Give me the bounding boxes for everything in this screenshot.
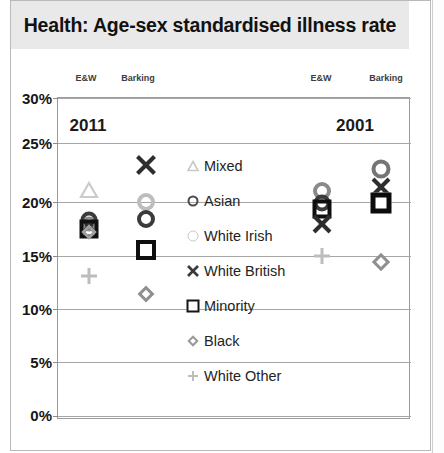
circle-icon [183, 191, 203, 211]
square-icon [371, 193, 392, 214]
column-header-2001-ew: E&W [311, 73, 332, 83]
legend-item-black[interactable]: Black [183, 323, 303, 358]
circle-icon [183, 226, 203, 246]
legend: Mixed Asian White Irish White British [183, 148, 303, 393]
triangle-icon [183, 156, 203, 176]
legend-label: White Irish [204, 228, 273, 244]
y-tick-15: 15% [22, 248, 52, 265]
tick-5 [53, 362, 58, 363]
legend-item-mixed[interactable]: Mixed [183, 148, 303, 183]
y-tick-20: 20% [22, 194, 52, 211]
legend-label: Black [204, 333, 239, 349]
x-icon [135, 154, 158, 177]
legend-label: Asian [204, 193, 240, 209]
legend-item-white-british[interactable]: White British [183, 253, 303, 288]
circle-icon [137, 210, 155, 228]
tick-15 [53, 256, 58, 257]
gridline-30 [58, 98, 411, 99]
tick-20 [53, 202, 58, 203]
legend-item-minority[interactable]: Minority [183, 288, 303, 323]
y-tick-25: 25% [22, 135, 52, 152]
legend-item-white-irish[interactable]: White Irish [183, 218, 303, 253]
column-header-2001-barking: Barking [369, 73, 403, 83]
tick-0 [53, 416, 58, 417]
y-tick-30: 30% [22, 90, 52, 107]
y-tick-10: 10% [22, 301, 52, 318]
y-tick-0: 0% [30, 407, 52, 424]
square-icon [136, 240, 156, 260]
chart-page: Health: Age-sex standardised illness rat… [0, 0, 444, 453]
group-label-2011: 2011 [70, 116, 107, 136]
tick-25 [53, 143, 58, 144]
triangle-icon [79, 181, 99, 199]
legend-label: Minority [204, 298, 255, 314]
plus-icon [183, 366, 203, 386]
group-label-2001: 2001 [336, 116, 374, 136]
gridline-25 [58, 143, 411, 144]
legend-item-asian[interactable]: Asian [183, 183, 303, 218]
y-axis-labels: 30% 25% 20% 15% 10% 5% 0% [4, 97, 52, 419]
tick-10 [53, 309, 58, 310]
square-icon [183, 296, 203, 316]
column-header-2011-ew: E&W [76, 73, 97, 83]
diamond-icon [138, 286, 155, 303]
tick-30 [53, 98, 58, 99]
plus-icon [79, 266, 99, 286]
gridline-0 [58, 416, 411, 417]
x-icon [311, 213, 333, 235]
circle-icon [137, 193, 155, 211]
legend-item-white-other[interactable]: White Other [183, 358, 303, 393]
page-title: Health: Age-sex standardised illness rat… [14, 8, 406, 42]
plus-icon [312, 246, 332, 266]
legend-label: Mixed [204, 158, 243, 174]
legend-label: White Other [204, 368, 281, 384]
column-header-2011-barking: Barking [121, 73, 155, 83]
y-tick-5: 5% [30, 354, 52, 371]
legend-label: White British [204, 263, 285, 279]
page-right-margin [432, 0, 444, 453]
diamond-icon [183, 331, 203, 351]
x-icon [183, 261, 203, 281]
